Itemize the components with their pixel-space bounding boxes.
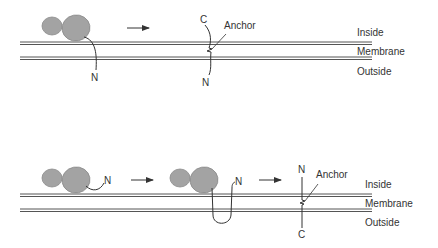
anchor-label: Anchor — [224, 20, 256, 31]
outside-label: Outside — [365, 217, 400, 228]
c-terminus-label: C — [200, 14, 207, 25]
n-terminus-label: N — [298, 164, 305, 175]
ribosome — [42, 13, 92, 43]
outside-label: Outside — [357, 66, 392, 77]
inside-label: Inside — [357, 27, 384, 38]
top-panel: N C N Anchor Inside Membrane Outside — [20, 13, 405, 88]
membrane-label: Membrane — [357, 46, 405, 57]
anchored-chain — [300, 177, 305, 228]
anchor-label: Anchor — [316, 169, 348, 180]
bottom-panel: N N N C Anchor Inside Membrane Outside — [20, 164, 413, 240]
n-terminus-label: N — [91, 72, 98, 83]
membrane-bilayer — [20, 194, 372, 212]
anchored-chain — [205, 25, 212, 75]
anchor-pointer — [305, 184, 318, 201]
n-terminus-label: N — [235, 176, 242, 187]
ribosome — [42, 165, 92, 195]
membrane-label: Membrane — [365, 198, 413, 209]
n-terminus-label: N — [104, 175, 111, 186]
c-terminus-label: C — [298, 229, 305, 240]
n-terminus-label: N — [202, 77, 209, 88]
inside-label: Inside — [365, 179, 392, 190]
membrane-bilayer — [20, 42, 372, 60]
looped-chain — [212, 182, 235, 223]
membrane-topology-diagram: N C N Anchor Inside Membrane Outside N — [0, 0, 438, 248]
